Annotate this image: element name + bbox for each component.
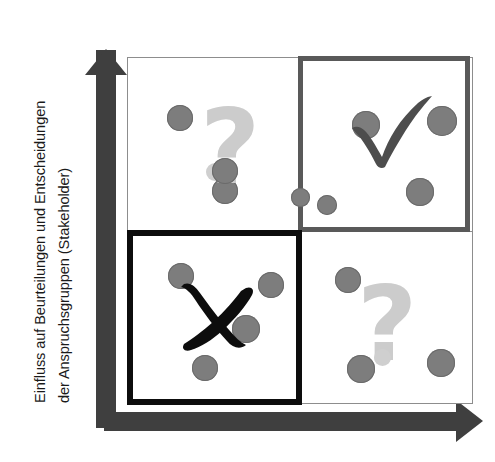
- question-mark-icon: ?: [200, 95, 260, 199]
- y-axis-arrow-head-icon: [85, 49, 127, 75]
- y-axis-arrow-shaft: [96, 50, 116, 428]
- data-dot: [167, 105, 193, 131]
- data-dot: [406, 178, 434, 206]
- check-mark-icon: [348, 95, 436, 169]
- data-dot: [427, 349, 455, 377]
- y-axis-label: Einfluss auf Beurteilungen und Entscheid…: [19, 0, 85, 407]
- data-dot: [291, 188, 310, 207]
- x-axis-arrow-head-icon: [456, 400, 483, 442]
- data-dot: [317, 195, 337, 215]
- question-mark-dot-icon: [374, 349, 391, 366]
- data-dot: [258, 272, 284, 298]
- data-dot: [212, 158, 238, 184]
- y-axis-label-line-1: Einfluss auf Beurteilungen und Entscheid…: [28, 0, 52, 407]
- data-dot: [192, 355, 218, 381]
- cross-mark-icon: [172, 282, 258, 352]
- y-axis-label-line-2: der Anspruchsgruppen (Stakeholder): [52, 0, 76, 407]
- matrix-diagram: Einfluss auf Beurteilungen und Entscheid…: [0, 0, 495, 462]
- x-axis-arrow-shaft: [104, 412, 460, 431]
